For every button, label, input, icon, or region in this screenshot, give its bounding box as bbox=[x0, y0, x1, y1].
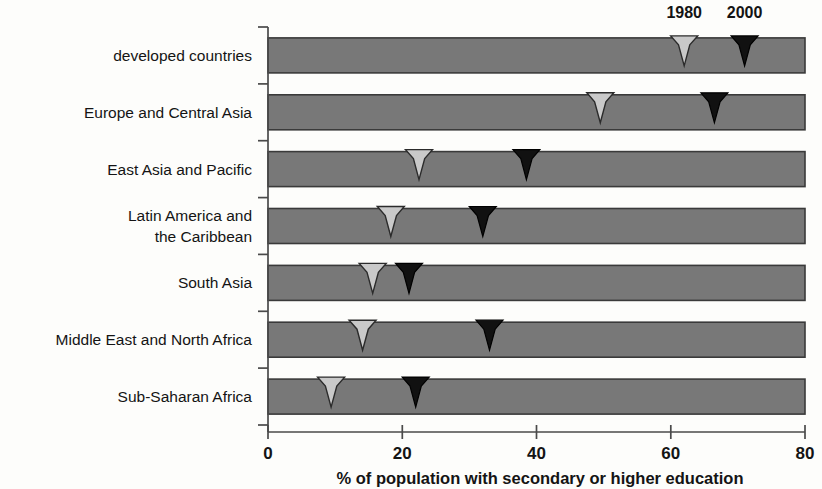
category-labels-group: developed countriesEurope and Central As… bbox=[56, 47, 253, 405]
legend-label-1980: 1980 bbox=[666, 4, 702, 21]
bar-row bbox=[268, 152, 805, 187]
bar-row bbox=[268, 209, 805, 244]
x-axis-tick-label: 20 bbox=[393, 444, 412, 463]
bar-row bbox=[268, 38, 805, 73]
category-label: East Asia and Pacific bbox=[107, 161, 252, 178]
horizontal-bar-chart: developed countriesEurope and Central As… bbox=[0, 0, 822, 489]
x-axis-tick-label: 40 bbox=[527, 444, 546, 463]
bar-row bbox=[268, 265, 805, 300]
chart-legend: 19802000 bbox=[666, 4, 762, 21]
bar-row bbox=[268, 322, 805, 357]
legend-label-2000: 2000 bbox=[727, 4, 763, 21]
category-label: Latin America and bbox=[128, 207, 252, 224]
category-label: Sub-Saharan Africa bbox=[118, 388, 253, 405]
x-axis-tick-label: 60 bbox=[661, 444, 680, 463]
chart-container: developed countriesEurope and Central As… bbox=[0, 0, 822, 489]
bar-row bbox=[268, 379, 805, 414]
x-axis-tick-label: 0 bbox=[263, 444, 272, 463]
category-label: South Asia bbox=[178, 274, 252, 291]
x-axis-tick-label: 80 bbox=[796, 444, 815, 463]
category-label: developed countries bbox=[113, 47, 252, 64]
x-axis-title: % of population with secondary or higher… bbox=[336, 469, 743, 487]
bar-row bbox=[268, 95, 805, 130]
category-label: Europe and Central Asia bbox=[84, 104, 252, 121]
category-label: Middle East and North Africa bbox=[56, 331, 253, 348]
category-label: the Caribbean bbox=[155, 228, 252, 245]
